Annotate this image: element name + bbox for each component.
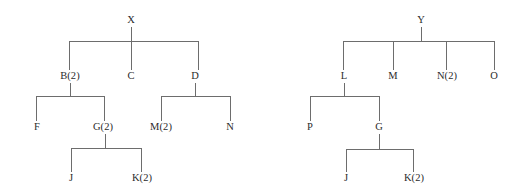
node-label-y: Y — [417, 14, 425, 25]
node-label-c: C — [127, 70, 134, 81]
node-label-f: F — [34, 121, 40, 132]
node-label-x: X — [127, 14, 135, 25]
node-label-g: G(2) — [93, 121, 113, 132]
node-label-b: B(2) — [60, 70, 80, 81]
tree-x-edges — [37, 27, 231, 172]
node-label-k2: K(2) — [404, 172, 424, 183]
node-label-o: O — [490, 70, 498, 81]
tree-edges-layer — [0, 0, 527, 192]
diagram-canvas: X B(2) C D F G(2) M(2) N J K(2) Y L M N(… — [0, 0, 527, 192]
tree-y-edges — [311, 27, 495, 172]
node-label-l: L — [341, 70, 348, 81]
node-label-g2: G — [375, 121, 383, 132]
node-label-k: K(2) — [132, 172, 152, 183]
node-label-n: N — [226, 121, 234, 132]
node-label-n2: N(2) — [437, 70, 457, 81]
node-label-j: J — [69, 172, 73, 183]
node-label-d: D — [191, 70, 199, 81]
node-label-m: M(2) — [150, 121, 172, 132]
node-label-j2: J — [344, 172, 348, 183]
node-label-p: P — [307, 121, 313, 132]
node-label-m2: M — [388, 70, 397, 81]
